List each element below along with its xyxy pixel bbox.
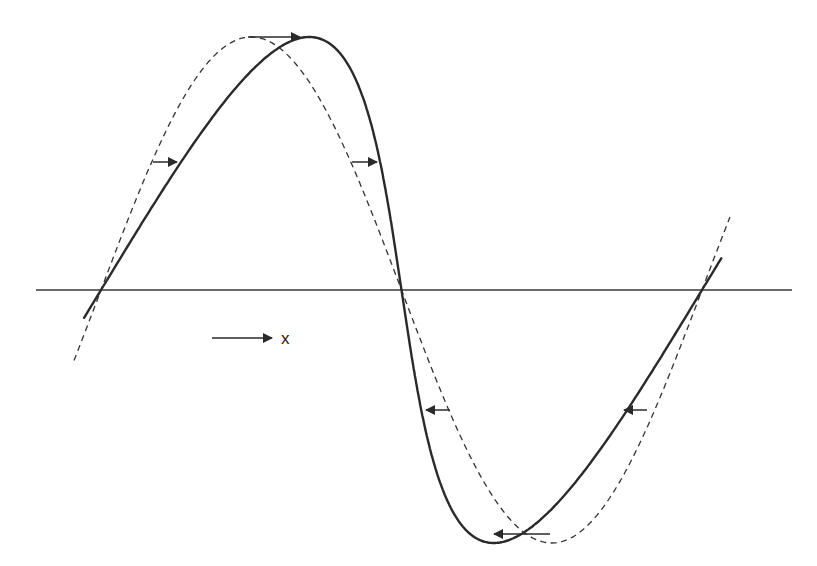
propagation-direction-indicator: x [212,329,290,348]
wave-diagram: x [0,0,817,566]
x-axis-label: x [281,329,290,348]
